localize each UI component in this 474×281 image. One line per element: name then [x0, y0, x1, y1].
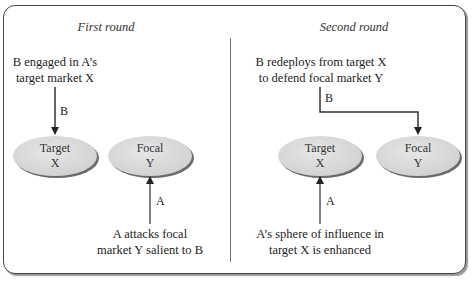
node-line1: Target: [305, 141, 335, 156]
node-line1: Focal: [405, 141, 432, 156]
round1-target-x-label: Target X: [13, 135, 97, 177]
round1-bottom-text: A attacks focal market Y salient to B: [97, 226, 203, 258]
arrow-b-round1: [51, 87, 59, 135]
round2-top-text-line2: to defend focal market Y: [256, 70, 387, 86]
round2-top-text: B redeploys from target X to defend foca…: [256, 54, 387, 86]
arrow-a-round2: [316, 176, 324, 224]
arrow-a-round1: [146, 176, 154, 224]
panel-title-first-round: First round: [78, 20, 135, 35]
round1-bottom-text-line1: A attacks focal: [97, 226, 203, 242]
round2-top-text-line1: B redeploys from target X: [256, 54, 387, 70]
round1-top-text-line1: B engaged in A’s: [13, 54, 97, 70]
round1-top-text: B engaged in A’s target market X: [13, 54, 97, 86]
panel-title-second-round: Second round: [320, 20, 389, 35]
node-line1: Target: [40, 141, 70, 156]
round2-target-x-label: Target X: [278, 135, 362, 177]
round1-focal-y-label: Focal Y: [108, 135, 192, 177]
node-line2: Y: [414, 156, 423, 171]
round1-arrow-a-label: A: [156, 194, 165, 209]
node-line2: X: [51, 156, 60, 171]
round1-bottom-text-line2: market Y salient to B: [97, 242, 203, 258]
round2-bottom-text-line2: target X is enhanced: [256, 242, 384, 258]
round2-focal-y-label: Focal Y: [376, 135, 460, 177]
round1-arrow-b-label: B: [60, 104, 68, 119]
round2-bottom-text-line1: A’s sphere of influence in: [256, 226, 384, 242]
node-line2: X: [316, 156, 325, 171]
node-line2: Y: [146, 156, 155, 171]
round2-arrow-b-label: B: [325, 91, 333, 106]
round2-arrow-a-label: A: [326, 194, 335, 209]
round2-bottom-text: A’s sphere of influence in target X is e…: [256, 226, 384, 258]
node-line1: Focal: [137, 141, 164, 156]
round1-top-text-line2: target market X: [13, 70, 97, 86]
arrow-b-round2: [320, 87, 422, 135]
